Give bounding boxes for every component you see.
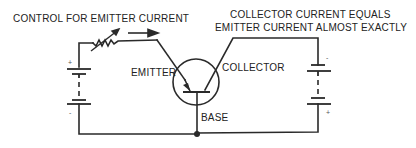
emitter-control-caption: CONTROL FOR EMITTER CURRENT bbox=[13, 13, 189, 24]
right-battery-plus-sign: + bbox=[326, 107, 330, 118]
left-battery-icon bbox=[67, 69, 91, 104]
transistor-circuit-diagram: CONTROL FOR EMITTER CURRENT COLLECTOR CU… bbox=[0, 0, 416, 148]
left-top-wire bbox=[79, 43, 93, 67]
base-label: BASE bbox=[201, 112, 228, 123]
current-arrow-head-icon bbox=[148, 30, 158, 37]
left-battery-plus-sign: + bbox=[68, 57, 72, 68]
collector-caption-line2: EMITTER CURRENT ALMOST EXACTLY bbox=[215, 22, 407, 33]
variable-resistor-icon bbox=[93, 40, 157, 46]
right-battery-minus-sign: - bbox=[326, 52, 329, 63]
base-junction-dot bbox=[194, 131, 200, 137]
emitter-arrow-icon bbox=[183, 83, 190, 91]
collector-label: COLLECTOR bbox=[222, 62, 285, 73]
left-battery-minus-sign: - bbox=[69, 107, 72, 118]
transistor-envelope-icon bbox=[173, 59, 219, 105]
collector-caption-line1: COLLECTOR CURRENT EQUALS bbox=[230, 9, 391, 20]
emitter-label: EMITTER bbox=[131, 67, 176, 78]
left-bottom-wire bbox=[79, 104, 197, 134]
right-battery-icon bbox=[307, 65, 331, 104]
variable-arrow-icon bbox=[91, 31, 117, 51]
